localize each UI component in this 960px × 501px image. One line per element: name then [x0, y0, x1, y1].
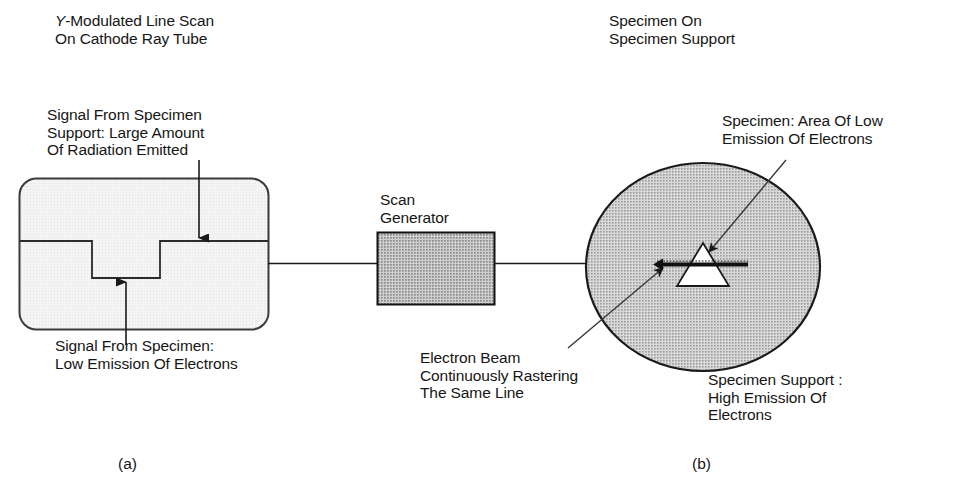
- label-support-signal-line3: Of Radiation Emitted: [47, 141, 188, 158]
- label-support-high: Specimen Support : High Emission Of Elec…: [708, 371, 842, 424]
- label-specimen-area-line2: Emission Of Electrons: [722, 130, 872, 147]
- label-scan-generator: Scan Generator: [380, 191, 449, 226]
- label-specimen-area-line1: Specimen: Area Of Low: [722, 112, 883, 129]
- label-scan-generator-line1: Scan: [380, 191, 415, 208]
- label-support-high-line2: High Emission Of: [708, 389, 826, 406]
- title-specimen-line2: Specimen Support: [609, 30, 735, 47]
- label-support-high-line1: Specimen Support :: [708, 371, 842, 388]
- figure-canvas: Y-Modulated Line Scan On Cathode Ray Tub…: [0, 0, 960, 501]
- title-specimen-line1: Specimen On: [609, 12, 702, 29]
- title-crt-line1-rest: -Modulated Line Scan: [65, 12, 214, 29]
- caption-panel-b: (b): [692, 455, 711, 472]
- label-support-signal-line2: Support: Large Amount: [47, 124, 204, 141]
- label-support-signal-line1: Signal From Specimen: [47, 106, 202, 123]
- title-specimen: Specimen On Specimen Support: [609, 12, 735, 47]
- title-crt: Y-Modulated Line Scan On Cathode Ray Tub…: [55, 12, 214, 47]
- diagram-graphics: [0, 0, 960, 501]
- label-electron-beam: Electron Beam Continuously Rastering The…: [420, 349, 578, 402]
- label-electron-beam-line1: Electron Beam: [420, 349, 520, 366]
- label-specimen-signal-line2: Low Emission Of Electrons: [55, 355, 238, 372]
- caption-panel-a: (a): [118, 455, 137, 472]
- label-specimen-signal-line1: Signal From Specimen:: [55, 337, 214, 354]
- label-support-high-line3: Electrons: [708, 406, 772, 423]
- title-crt-line2: On Cathode Ray Tube: [55, 30, 207, 47]
- label-electron-beam-line3: The Same Line: [420, 384, 524, 401]
- label-scan-generator-line2: Generator: [380, 209, 449, 226]
- label-specimen-area: Specimen: Area Of Low Emission Of Electr…: [722, 112, 883, 147]
- crt-screen: [20, 179, 269, 330]
- label-support-signal: Signal From Specimen Support: Large Amou…: [47, 106, 204, 159]
- scan-generator-box: [378, 233, 495, 305]
- title-crt-italic-y: Y: [55, 12, 65, 29]
- label-electron-beam-line2: Continuously Rastering: [420, 367, 578, 384]
- label-specimen-signal: Signal From Specimen: Low Emission Of El…: [55, 337, 238, 372]
